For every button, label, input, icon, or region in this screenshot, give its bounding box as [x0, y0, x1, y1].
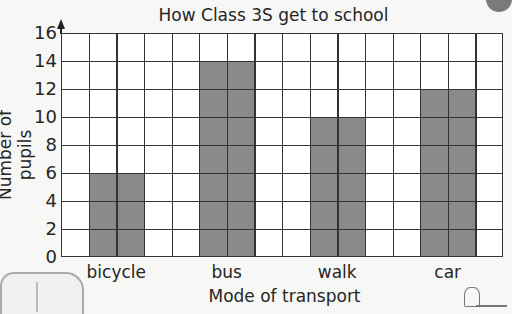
grid-hline	[61, 256, 503, 257]
grid-hline	[61, 201, 503, 202]
y-tick-label: 14	[27, 50, 57, 71]
x-tick-label-bus: bus	[187, 262, 267, 282]
grid-hline	[61, 33, 503, 34]
cyclist-ground-line	[476, 305, 507, 307]
grid-hline	[61, 229, 503, 230]
y-tick-label: 16	[27, 22, 57, 43]
grid-hline	[61, 173, 503, 174]
chart-title: How Class 3S get to school	[0, 5, 507, 25]
cyclist-illustration	[464, 287, 480, 307]
grid-hline	[61, 89, 503, 90]
grid-hline	[61, 61, 503, 62]
grid-hline	[61, 117, 503, 118]
plot-area	[61, 33, 503, 257]
bus-illustration	[0, 272, 84, 314]
y-tick-label: 0	[27, 246, 57, 267]
x-tick-label-bicycle: bicycle	[76, 262, 156, 282]
y-axis-label: Number of pupils	[0, 85, 35, 225]
x-tick-label-walk: walk	[297, 262, 377, 282]
x-tick-label-car: car	[408, 262, 488, 282]
grid-hline	[61, 145, 503, 146]
